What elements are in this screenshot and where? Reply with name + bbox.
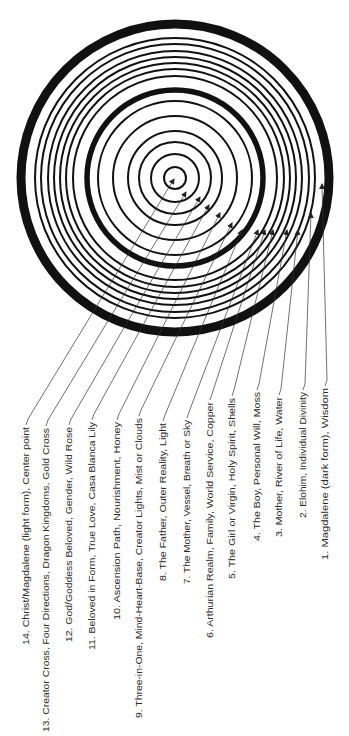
- ring-14: [151, 154, 199, 202]
- ring-13: [139, 142, 211, 214]
- ring-15: [164, 167, 186, 189]
- ring-2: [35, 38, 315, 318]
- ring-label-5: 5. The Girl or Virgin, Holy Spirit, Shel…: [227, 398, 237, 579]
- concentric-circles-diagram: 14. Christ/Magdalene (light form), Cente…: [0, 0, 349, 736]
- ring-label-1: 1. Magdalene (dark form), Wisdom: [320, 388, 330, 560]
- ring-label-14: 14. Christ/Magdalene (light form), Cente…: [21, 427, 31, 645]
- concentric-rings: [21, 24, 329, 332]
- ring-5: [54, 57, 296, 299]
- ring-label-4: 4. The Boy, Personal Will, Moss: [252, 392, 262, 541]
- ring-label-10: 10. Ascension Path, Nourishment, Honey: [112, 422, 122, 620]
- ring-8: [73, 76, 277, 280]
- ring-label-3: 3. Mother, River of Life, Water: [274, 397, 284, 537]
- ring-label-13: 13. Creator Cross, Four Directions, Drag…: [41, 428, 51, 732]
- ring-label-11: 11. Beloved in Form, True Love, Casa Bla…: [87, 422, 97, 650]
- ring-11: [113, 116, 237, 240]
- ring-label-8: 8. The Father, Outer Reality, Light: [158, 423, 168, 581]
- leader-line-10: [117, 213, 220, 420]
- leader-line-2: [303, 213, 311, 390]
- ring-label-2: 2. Elohim, Individual Divinity: [298, 392, 308, 518]
- ring-10: [98, 101, 252, 255]
- ring-label-7: 7. The Mother, Vessel, Breath or Sky: [182, 420, 192, 584]
- ring-label-12: 12. God/Goddess Beloved, Gender, Wild Ro…: [64, 427, 74, 642]
- ring-label-9: 9. Three-in-One, Mind-Heart-Base, Creato…: [134, 418, 144, 718]
- ring-1: [21, 24, 329, 332]
- ring-labels: 14. Christ/Magdalene (light form), Cente…: [21, 388, 330, 732]
- ring-label-6: 6. Arthurian Realm, Family, World Servic…: [205, 402, 215, 638]
- ring-3: [41, 44, 309, 312]
- ring-12: [128, 131, 222, 225]
- leader-lines: [26, 179, 327, 426]
- leader-line-3: [279, 230, 298, 395]
